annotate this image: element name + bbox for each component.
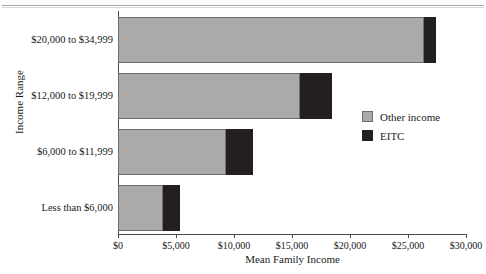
legend: Other income EITC (362, 108, 440, 146)
legend-item-eitc: EITC (362, 127, 440, 144)
x-axis-tick (350, 234, 351, 238)
x-axis-tick-label: $25,000 (392, 240, 425, 252)
page-rule-top-secondary (2, 7, 484, 8)
x-axis-tick (466, 234, 467, 238)
x-axis-tick (176, 234, 177, 238)
y-axis-category-label: $20,000 to $34,999 (0, 34, 113, 46)
x-axis-tick-label: $30,000 (450, 240, 483, 252)
x-axis-tick (234, 234, 235, 238)
x-axis-tick-label: $20,000 (334, 240, 367, 252)
bar-segment-other-income (118, 129, 226, 175)
x-axis-tick-label: $5,000 (162, 240, 190, 252)
x-axis-tick-label: $10,000 (218, 240, 251, 252)
page-rule-top (2, 5, 484, 6)
legend-item-other-income: Other income (362, 108, 440, 125)
x-axis-tick-label: $0 (113, 240, 123, 252)
x-axis-tick (292, 234, 293, 238)
y-axis-category-label: Less than $6,000 (0, 202, 113, 214)
x-axis-title: Mean Family Income (118, 253, 467, 265)
bar-segment-eitc (424, 17, 436, 63)
bar-segment-other-income (118, 17, 424, 63)
bar-segment-eitc (163, 185, 180, 231)
bar-segment-other-income (118, 73, 300, 119)
chart-container: $0$5,000$10,000$15,000$20,000$25,000$30,… (0, 0, 486, 274)
x-axis-tick (408, 234, 409, 238)
bar-segment-eitc (226, 129, 253, 175)
legend-label-other-income: Other income (380, 111, 440, 123)
y-axis-category-label: $6,000 to $11,999 (0, 146, 113, 158)
x-axis-tick-label: $15,000 (276, 240, 309, 252)
bar-segment-other-income (118, 185, 163, 231)
y-axis-title: Income Range (13, 57, 25, 147)
x-axis-tick (118, 234, 119, 238)
legend-label-eitc: EITC (380, 130, 404, 142)
legend-swatch-other-income-icon (362, 111, 373, 122)
legend-swatch-eitc-icon (362, 130, 373, 141)
bar-segment-eitc (300, 73, 332, 119)
